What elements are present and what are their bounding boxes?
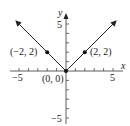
point-2-2 xyxy=(83,50,87,54)
y-axis-arrow-icon xyxy=(64,13,69,19)
point-label-origin: (0, 0) xyxy=(42,73,64,85)
y-tick-label-5: 5 xyxy=(57,19,62,30)
x-axis-label: x xyxy=(120,60,126,71)
x-tick-label-5: 5 xyxy=(110,72,115,83)
point-origin xyxy=(64,69,68,73)
y-tick-label-neg5: −5 xyxy=(51,113,62,124)
point-label-2-2: (2, 2) xyxy=(90,46,112,58)
abs-value-graph: y x 5 −5 −5 5 (−2, 2) (0, 0) (2, 2) xyxy=(0,0,130,126)
point-label-neg2-2: (−2, 2) xyxy=(10,46,37,58)
y-axis-label: y xyxy=(57,7,63,18)
point-neg2-2 xyxy=(45,50,49,54)
x-tick-label-neg5: −5 xyxy=(12,72,23,83)
